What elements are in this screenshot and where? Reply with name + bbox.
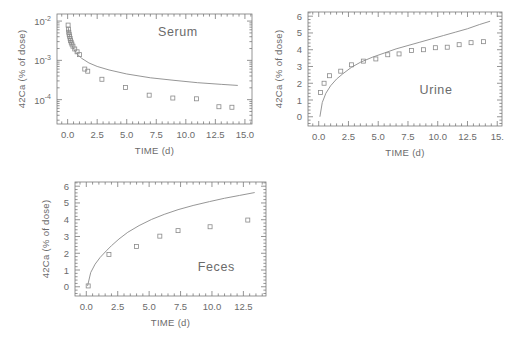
y-axis-title: 42Ca (% of dose) bbox=[273, 30, 284, 109]
plot-urine: 0.02.55.07.510.012.515.0123456TIME (d)42… bbox=[258, 0, 511, 172]
data-point-marker bbox=[322, 81, 326, 85]
plot-feces: 0.02.55.07.510.012.50123456TIME (d)42Ca … bbox=[18, 168, 280, 351]
y-tick-label: 0 bbox=[297, 111, 302, 122]
x-tick-label: 7.5 bbox=[174, 301, 187, 312]
data-point-marker bbox=[194, 97, 198, 101]
data-point-marker bbox=[339, 69, 343, 73]
y-axis-title: 42Ca (% of dose) bbox=[40, 200, 51, 279]
y-tick-label: 4 bbox=[297, 44, 302, 55]
x-tick-label: 5.0 bbox=[372, 131, 385, 142]
data-point-marker bbox=[230, 105, 234, 109]
y-tick-label: 6 bbox=[297, 11, 302, 22]
x-axis-title: TIME (d) bbox=[135, 145, 174, 156]
y-tick-label: 1 bbox=[297, 95, 302, 106]
x-tick-label: 5.0 bbox=[143, 301, 156, 312]
data-point-marker bbox=[66, 23, 70, 27]
data-point-marker bbox=[374, 57, 378, 61]
y-tick-label: 2 bbox=[297, 78, 302, 89]
chart-panel-feces: 0.02.55.07.510.012.50123456TIME (d)42Ca … bbox=[18, 168, 280, 351]
plot-serum: 0.02.55.07.510.012.515.010-210-310-4TIME… bbox=[0, 0, 262, 168]
x-tick-label: 2.5 bbox=[91, 129, 104, 140]
data-point-marker bbox=[482, 40, 486, 44]
data-point-marker bbox=[457, 43, 461, 47]
data-point-marker bbox=[397, 52, 401, 56]
axis-frame bbox=[75, 182, 266, 296]
y-tick-label: 5 bbox=[297, 27, 302, 38]
data-point-marker bbox=[421, 48, 425, 52]
x-tick-label: 5.0 bbox=[120, 129, 133, 140]
y-tick-label: 2 bbox=[64, 248, 69, 259]
x-tick-label: 15.0 bbox=[236, 129, 255, 140]
x-tick-label: 10.0 bbox=[203, 301, 222, 312]
y-axis-title: 42Ca (% of dose) bbox=[16, 30, 27, 109]
data-point-marker bbox=[100, 77, 104, 81]
data-point-marker bbox=[217, 105, 221, 109]
data-point-marker bbox=[171, 96, 175, 100]
x-tick-label: 12.5 bbox=[206, 129, 225, 140]
y-tick-label: 3 bbox=[297, 61, 302, 72]
data-point-marker bbox=[135, 245, 139, 249]
data-point-marker bbox=[319, 90, 323, 94]
panel-title-feces: Feces bbox=[198, 260, 235, 274]
y-tick-label: 6 bbox=[64, 181, 69, 192]
y-tick-label: 0 bbox=[64, 281, 69, 292]
x-tick-label: 2.5 bbox=[111, 301, 124, 312]
data-point-marker bbox=[158, 234, 162, 238]
x-tick-label: 0.0 bbox=[312, 131, 325, 142]
y-tick-label: 5 bbox=[64, 197, 69, 208]
chart-panel-serum: 0.02.55.07.510.012.515.010-210-310-4TIME… bbox=[0, 0, 262, 168]
x-tick-label: 15. bbox=[491, 131, 504, 142]
y-tick-label: 10-4 bbox=[34, 93, 51, 106]
panel-title-urine: Urine bbox=[420, 83, 453, 97]
x-tick-label: 7.5 bbox=[150, 129, 163, 140]
x-tick-label: 7.5 bbox=[401, 131, 414, 142]
data-point-marker bbox=[107, 253, 111, 257]
chart-panel-urine: 0.02.55.07.510.012.515.0123456TIME (d)42… bbox=[258, 0, 511, 172]
data-point-marker bbox=[246, 218, 250, 222]
panel-title-serum: Serum bbox=[158, 25, 198, 39]
data-point-marker bbox=[469, 41, 473, 45]
x-tick-label: 12.5 bbox=[234, 301, 253, 312]
y-tick-label: 10-2 bbox=[34, 15, 51, 28]
y-tick-label: 4 bbox=[64, 214, 69, 225]
y-tick-label: 10-3 bbox=[34, 54, 51, 67]
y-tick-label: 3 bbox=[64, 231, 69, 242]
data-point-marker bbox=[124, 85, 128, 89]
model-curve bbox=[320, 21, 490, 117]
x-tick-label: 10.0 bbox=[177, 129, 196, 140]
x-tick-label: 0.0 bbox=[80, 301, 93, 312]
model-curve bbox=[68, 27, 238, 85]
data-point-marker bbox=[147, 93, 151, 97]
x-tick-label: 12.5 bbox=[458, 131, 477, 142]
data-point-marker bbox=[433, 46, 437, 50]
x-axis-title: TIME (d) bbox=[151, 317, 190, 328]
y-tick-label: 1 bbox=[64, 265, 69, 276]
data-point-marker bbox=[176, 229, 180, 233]
x-tick-label: 2.5 bbox=[342, 131, 355, 142]
data-point-marker bbox=[445, 45, 449, 49]
x-axis-title: TIME (d) bbox=[385, 147, 424, 158]
axis-frame bbox=[308, 12, 502, 126]
data-point-marker bbox=[386, 53, 390, 57]
data-point-marker bbox=[327, 74, 331, 78]
x-tick-label: 10.0 bbox=[428, 131, 447, 142]
data-point-marker bbox=[208, 225, 212, 229]
data-point-marker bbox=[410, 49, 414, 53]
x-tick-label: 0.0 bbox=[61, 129, 74, 140]
